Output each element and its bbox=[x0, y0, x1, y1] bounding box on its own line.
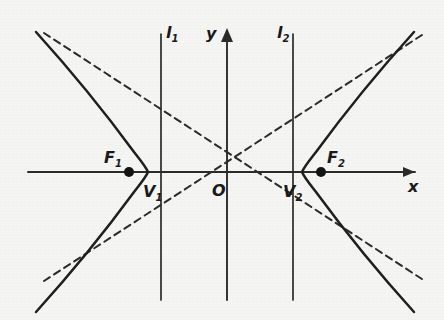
focus-dot-f1 bbox=[124, 167, 134, 177]
x-axis-arrow-icon bbox=[403, 167, 415, 177]
focus-dot-f2 bbox=[316, 167, 326, 177]
hyperbola-figure: l1 y l2 x F1 V1 O V2 bbox=[0, 0, 444, 320]
label-origin: O bbox=[212, 181, 226, 200]
label-focus-f2: F2 bbox=[327, 148, 345, 169]
y-axis-arrow-icon bbox=[221, 28, 233, 42]
diagram-canvas: l1 y l2 x F1 V1 O V2 bbox=[0, 0, 444, 320]
label-x-axis: x bbox=[407, 177, 419, 196]
labels-group: l1 y l2 x F1 V1 O V2 bbox=[104, 23, 419, 203]
label-vertex-v2: V2 bbox=[283, 182, 302, 203]
label-y-axis: y bbox=[206, 24, 217, 43]
label-vertex-v1: V1 bbox=[143, 182, 162, 203]
asymptotes-group bbox=[44, 33, 425, 281]
axes-group bbox=[28, 28, 415, 300]
label-focus-f1: F1 bbox=[104, 148, 122, 169]
label-directrix-l2: l2 bbox=[277, 23, 289, 44]
label-directrix-l1: l1 bbox=[166, 23, 178, 44]
